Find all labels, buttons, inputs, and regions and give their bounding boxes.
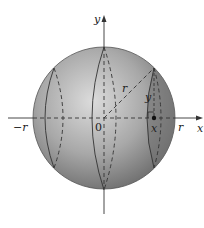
x-axis-label: x: [197, 122, 204, 135]
y-axis-arrow-icon: [102, 15, 107, 22]
slice-position-label: x: [151, 122, 158, 135]
pos-r-label: r: [178, 121, 184, 134]
point-x: [152, 116, 156, 120]
origin-label: 0: [95, 121, 102, 134]
radius-label: r: [122, 82, 128, 95]
slice-height-label: y: [144, 91, 152, 104]
x-axis-arrow-icon: [196, 116, 203, 121]
neg-r-label: −r: [13, 121, 28, 134]
y-axis-label: y: [93, 13, 101, 26]
sphere-diagram: y x 0 −r r r y x: [0, 0, 204, 228]
